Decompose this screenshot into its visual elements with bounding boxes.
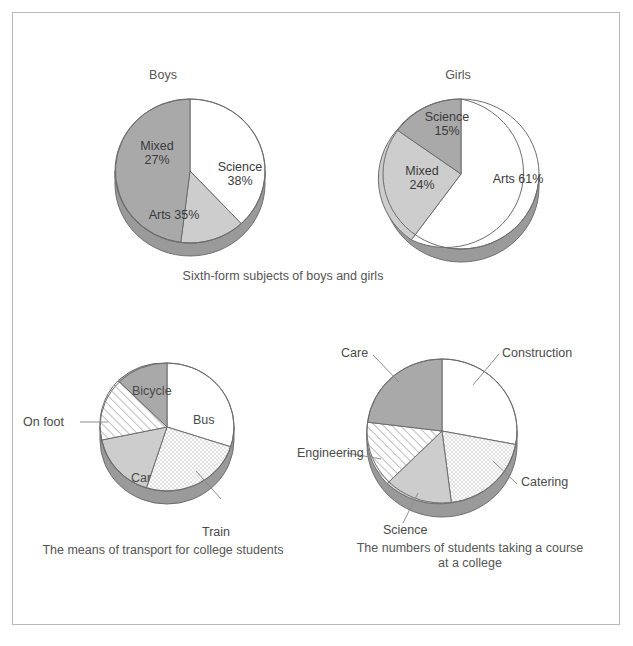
slice-label-transport-bicycle: Bicycle (132, 384, 172, 398)
caption-college: The numbers of students taking a course … (325, 541, 615, 571)
chart-panel-college: Construction Catering Science Engineerin… (313, 333, 621, 578)
slice-label-college-construction: Construction (502, 346, 572, 360)
slice-label-college-engineering: Engineering (297, 446, 364, 460)
caption-transport: The means of transport for college stude… (13, 543, 313, 558)
slice-label-college-catering: Catering (521, 475, 568, 489)
slice-label-transport-bus: Bus (193, 413, 215, 427)
pie-college (363, 355, 523, 520)
slice-label-transport-onfoot: On foot (23, 415, 64, 429)
chart-title-girls: Girls (313, 68, 603, 82)
figure-frame: Boys Science 38% (12, 12, 620, 625)
slice-label-college-care: Care (341, 346, 368, 360)
chart-panel-girls: Girls Arts 61% Mixed 24% Science 15% (313, 13, 621, 263)
caption-sixth-form: Sixth-form subjects of boys and girls (13, 269, 553, 284)
pie-boys (110, 96, 270, 261)
slice-label-transport-car: Car (131, 471, 151, 485)
pie-transport (96, 359, 238, 507)
pie-girls (378, 96, 544, 264)
chart-title-boys: Boys (13, 68, 313, 82)
slice-label-college-science: Science (383, 523, 427, 537)
slice-label-transport-train: Train (202, 525, 230, 539)
chart-panel-transport: Bus Train Car On foot Bicycle The means … (13, 343, 321, 573)
chart-panel-boys: Boys Science 38% (13, 13, 313, 263)
